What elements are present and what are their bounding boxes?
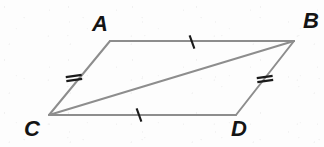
segment-CA — [49, 41, 110, 115]
vertex-label-d: D — [231, 118, 247, 140]
vertex-label-a: A — [92, 13, 108, 35]
vertex-label-c: C — [24, 118, 40, 140]
tick-double-CA-stroke-1 — [66, 79, 82, 81]
vertex-label-b: B — [303, 10, 319, 32]
tick-double-DB-stroke-1 — [257, 80, 273, 82]
parallelogram-drawing — [0, 0, 324, 147]
geometry-figure: A B C D — [0, 0, 324, 147]
tick-double-DB-stroke-2 — [257, 76, 273, 78]
